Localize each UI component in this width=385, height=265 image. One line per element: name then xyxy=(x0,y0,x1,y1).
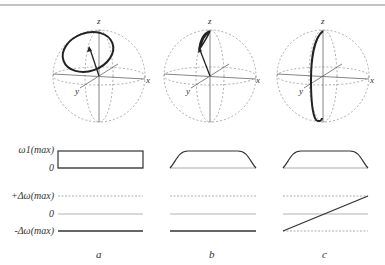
omega1-pulse-a xyxy=(58,151,143,168)
axis-label-z-b: z xyxy=(208,16,212,26)
magnetization-vector-a xyxy=(90,49,99,76)
omega1-pulse-b xyxy=(170,151,256,168)
axis-label-y-b: y xyxy=(186,86,190,96)
label-dw-zero: 0 xyxy=(0,208,54,219)
label-dw-plus: +Δω(max) xyxy=(0,190,54,201)
axis-label-z-c: z xyxy=(321,16,325,26)
panel-label-b: b xyxy=(209,248,215,260)
axis-label-x-b: x xyxy=(256,75,260,85)
bloch-sphere-b xyxy=(164,30,256,122)
delta-omega-c xyxy=(283,196,368,231)
bloch-sphere-a xyxy=(53,25,145,122)
axis-label-y-a: y xyxy=(75,86,79,96)
axis-label-x-a: x xyxy=(146,75,150,85)
panel-label-c: c xyxy=(322,248,327,260)
label-omega1-zero: 0 xyxy=(0,162,54,173)
panel-label-a: a xyxy=(96,248,102,260)
label-dw-minus: -Δω(max) xyxy=(0,225,54,236)
figure-canvas xyxy=(0,0,385,265)
trajectory-b xyxy=(199,31,210,50)
label-omega1-max: ω1(max) xyxy=(0,144,54,155)
omega1-pulse-c xyxy=(283,151,368,168)
axis-label-x-c: x xyxy=(370,75,374,85)
axis-label-z-a: z xyxy=(97,16,101,26)
trajectory-a xyxy=(57,25,119,78)
magnetization-vector-b xyxy=(200,50,210,76)
delta-omega-row xyxy=(58,196,368,231)
omega1-row xyxy=(58,151,368,168)
bloch-sphere-c xyxy=(277,30,369,122)
axis-label-y-c: y xyxy=(299,86,303,96)
